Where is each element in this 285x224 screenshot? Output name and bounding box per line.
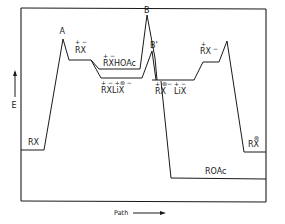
label-product-roac: ROAc xyxy=(205,167,226,176)
x-axis-label: Path xyxy=(114,209,128,217)
svg-text:LiX: LiX xyxy=(174,87,187,96)
energy-curve-free-ions xyxy=(152,41,266,152)
label-a: A xyxy=(60,27,66,36)
energy-diagram: E Path A B B' RX + − RX + − RXHOAc + − +… xyxy=(0,0,285,224)
label-ion-pair: + − RX xyxy=(75,38,87,55)
svg-text:RX: RX xyxy=(75,46,87,55)
label-rx-minus: + RX − xyxy=(200,40,218,56)
svg-text:−: − xyxy=(213,45,218,52)
label-ion-pair-hoac: + − RXHOAc xyxy=(103,52,136,68)
label-b: B xyxy=(144,6,150,15)
svg-text:+ − +⊛ −: + − +⊛ − xyxy=(101,79,132,86)
svg-text:+ ⊛−: + ⊛− xyxy=(155,80,172,87)
y-axis-label: E xyxy=(12,101,17,110)
svg-text:+ −: + − xyxy=(75,38,87,45)
x-axis xyxy=(21,201,266,202)
svg-text:RXHOAc: RXHOAc xyxy=(103,59,136,68)
svg-text:RX: RX xyxy=(200,47,212,56)
label-lix: + − LiX xyxy=(174,80,187,96)
label-b-prime: B' xyxy=(150,41,158,50)
label-reactant-rx: RX xyxy=(28,138,40,147)
label-ion-pair-lix: + − +⊛ − RXLiX xyxy=(101,79,132,95)
path-arrow xyxy=(133,211,166,215)
svg-text:+ −: + − xyxy=(174,80,186,87)
svg-text:RX: RX xyxy=(155,87,167,96)
label-product-rx-star: ⊛ RX xyxy=(248,134,260,149)
energy-curve-start xyxy=(21,39,91,150)
svg-text:RX: RX xyxy=(248,140,260,149)
svg-text:+: + xyxy=(201,40,206,47)
svg-text:RXLiX: RXLiX xyxy=(101,86,125,95)
energy-axis-arrow xyxy=(13,70,17,97)
frame xyxy=(21,8,266,202)
label-free-ions: + ⊛− RX xyxy=(155,80,172,96)
